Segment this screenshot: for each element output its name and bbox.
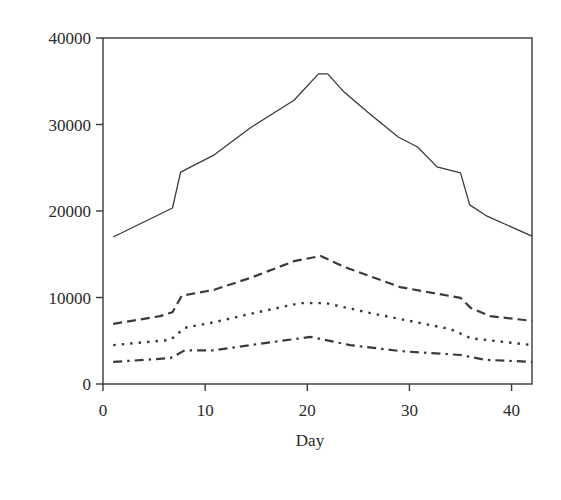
x-tick-label: 40 xyxy=(503,401,520,420)
line-chart: 010203040010000200003000040000 Day xyxy=(0,0,561,500)
x-tick-label: 10 xyxy=(197,401,214,420)
series-line-dashed xyxy=(113,256,532,324)
y-tick-label: 40000 xyxy=(49,29,92,48)
x-tick-label: 30 xyxy=(401,401,418,420)
series-line-dashdot xyxy=(113,337,532,362)
y-tick-label: 0 xyxy=(83,375,92,394)
series-line-solid xyxy=(113,74,532,237)
x-axis-title: Day xyxy=(296,431,325,450)
y-tick-label: 10000 xyxy=(49,289,92,308)
series-lines xyxy=(113,74,532,362)
x-tick-label: 20 xyxy=(299,401,316,420)
y-tick-label: 20000 xyxy=(49,202,92,221)
series-line-dotted xyxy=(113,303,532,345)
y-tick-label: 30000 xyxy=(49,116,92,135)
x-tick-label: 0 xyxy=(99,401,108,420)
